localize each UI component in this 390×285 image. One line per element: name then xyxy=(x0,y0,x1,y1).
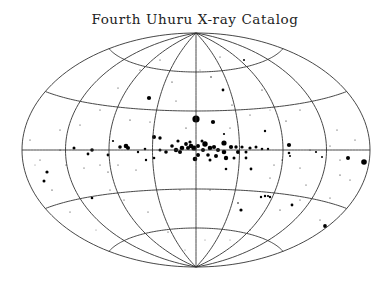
xray-source-marker xyxy=(270,110,271,111)
xray-source-marker xyxy=(148,212,149,213)
xray-source-marker xyxy=(118,165,119,166)
xray-source-marker xyxy=(176,101,177,102)
xray-source-marker xyxy=(300,200,301,201)
xray-source-marker xyxy=(205,240,206,241)
xray-source-marker xyxy=(223,133,225,135)
xray-source-marker xyxy=(289,155,291,157)
xray-source-marker xyxy=(112,140,114,142)
xray-source-marker xyxy=(80,125,81,126)
xray-source-marker xyxy=(202,141,207,146)
xray-source-marker xyxy=(35,165,36,166)
xray-source-marker xyxy=(250,115,251,116)
xray-source-marker xyxy=(168,232,169,233)
xray-source-marker xyxy=(285,120,286,121)
xray-source-marker xyxy=(209,159,212,162)
xray-source-marker xyxy=(239,208,242,211)
xray-source-marker xyxy=(107,171,108,172)
xray-source-marker xyxy=(118,145,122,149)
xray-source-marker xyxy=(339,174,340,175)
xray-source-marker xyxy=(287,143,291,147)
xray-source-marker xyxy=(231,104,232,105)
xray-source-marker xyxy=(225,168,228,171)
xray-source-marker xyxy=(214,154,218,158)
xray-source-marker xyxy=(346,156,350,160)
xray-source-marker xyxy=(84,168,85,169)
xray-source-marker xyxy=(222,89,225,92)
xray-source-marker xyxy=(164,150,168,154)
xray-source-marker xyxy=(206,153,210,157)
xray-source-marker xyxy=(212,145,216,149)
xray-source-marker xyxy=(45,170,48,173)
xray-source-marker xyxy=(140,70,141,71)
xray-source-marker xyxy=(291,204,294,207)
xray-source-marker xyxy=(260,196,262,198)
xray-source-marker xyxy=(250,168,253,171)
xray-source-marker xyxy=(118,88,119,89)
xray-source-marker xyxy=(110,190,111,191)
xray-source-marker xyxy=(150,122,151,123)
xray-source-marker xyxy=(51,189,52,190)
xray-source-marker xyxy=(210,190,211,191)
xray-source-marker xyxy=(306,185,307,186)
xray-source-marker xyxy=(73,147,76,150)
xray-source-marker xyxy=(196,144,200,148)
xray-source-marker xyxy=(188,140,191,143)
xray-source-marker xyxy=(158,136,161,139)
xray-sources xyxy=(30,57,367,251)
xray-source-marker xyxy=(245,157,248,160)
xray-source-marker xyxy=(220,57,221,58)
xray-source-marker xyxy=(60,130,61,131)
xray-source-marker xyxy=(124,200,125,201)
xray-source-marker xyxy=(300,168,301,169)
xray-source-marker xyxy=(320,220,321,221)
xray-source-marker xyxy=(315,151,317,153)
xray-source-marker xyxy=(270,178,271,179)
xray-source-marker xyxy=(274,165,275,166)
xray-source-marker xyxy=(330,198,331,199)
xray-source-marker xyxy=(267,195,269,197)
xray-source-marker xyxy=(210,76,211,77)
xray-source-marker xyxy=(355,140,356,141)
xray-source-marker xyxy=(229,145,233,149)
xray-source-marker xyxy=(255,146,258,149)
xray-source-marker xyxy=(233,157,236,160)
xray-source-marker xyxy=(361,159,367,165)
aitoff-sky-map xyxy=(0,0,390,285)
xray-source-marker xyxy=(196,153,200,157)
xray-source-marker xyxy=(70,212,71,213)
xray-source-marker xyxy=(230,128,231,129)
xray-source-marker xyxy=(170,144,174,148)
xray-source-marker xyxy=(185,250,186,251)
xray-source-marker xyxy=(288,152,291,155)
xray-source-marker xyxy=(264,195,266,197)
xray-source-marker xyxy=(248,146,251,149)
xray-source-marker xyxy=(321,156,323,158)
xray-source-marker xyxy=(100,110,101,111)
xray-source-marker xyxy=(176,139,179,142)
xray-source-marker xyxy=(180,190,181,191)
xray-source-marker xyxy=(137,151,139,153)
xray-source-marker xyxy=(201,140,204,143)
xray-source-marker xyxy=(40,160,41,161)
xray-source-marker xyxy=(221,140,226,145)
xray-source-marker xyxy=(279,209,280,210)
xray-source-marker xyxy=(171,81,172,82)
xray-source-marker xyxy=(330,146,331,147)
projection-grid xyxy=(22,33,370,267)
xray-source-marker xyxy=(224,156,228,160)
xray-source-marker xyxy=(234,145,237,148)
xray-source-marker xyxy=(240,145,243,148)
xray-source-marker xyxy=(178,150,182,154)
xray-source-marker xyxy=(129,119,130,120)
xray-source-marker xyxy=(350,180,351,181)
xray-source-marker xyxy=(340,160,341,161)
xray-source-marker xyxy=(300,110,301,111)
xray-source-marker xyxy=(237,202,239,204)
xray-source-marker xyxy=(100,165,101,166)
xray-source-marker xyxy=(200,70,201,71)
xray-source-marker xyxy=(126,146,130,150)
xray-source-marker xyxy=(160,60,161,61)
xray-source-marker xyxy=(136,170,137,171)
xray-source-marker xyxy=(245,151,248,154)
xray-source-marker xyxy=(185,127,186,128)
